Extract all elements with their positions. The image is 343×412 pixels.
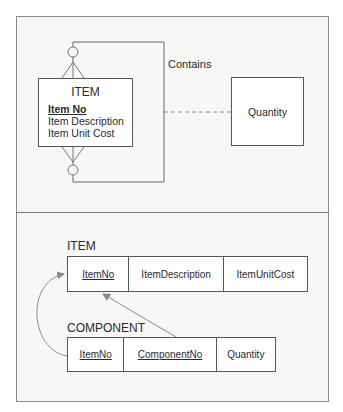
table-cell: Quantity [217,338,275,371]
table-cell: ItemDescription [129,257,223,291]
associative-attribute-box: Quantity [231,77,304,146]
table-cell: ComponentNo [124,338,216,371]
table-cell: ItemNo [68,257,129,291]
entity-attribute: Item Description [39,115,132,127]
table-title-item: ITEM [67,240,96,252]
associative-attribute-label: Quantity [248,106,287,118]
table-item: ItemNo ItemDescription ItemUnitCost [67,256,308,292]
optional-circle-top [68,47,78,57]
fk-arrow-itemno [37,274,67,356]
table-cell: ItemUnitCost [224,257,307,291]
entity-title: ITEM [39,85,132,99]
table-cell: ItemNo [68,338,124,371]
relationship-label: Contains [168,59,211,70]
table-title-component: COMPONENT [67,322,145,334]
entity-attribute-primary-key: Item No [39,103,132,115]
optional-circle-bottom [68,165,78,175]
entity-attribute: Item Unit Cost [39,127,132,139]
entity-item: ITEM Item No Item Description Item Unit … [38,78,133,147]
table-component: ItemNo ComponentNo Quantity [67,337,276,372]
